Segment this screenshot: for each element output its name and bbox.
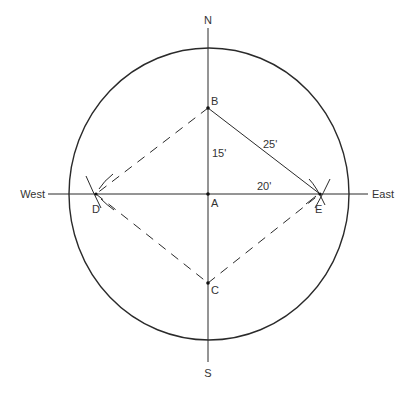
dashed-b-d: [96, 108, 208, 194]
label-point-b: B: [211, 95, 218, 107]
point-a: [206, 192, 210, 196]
label-west: West: [20, 188, 45, 200]
dashed-c-e: [208, 194, 320, 283]
point-c: [206, 281, 210, 285]
measurement-ae: 20': [257, 180, 271, 192]
label-east: East: [372, 188, 394, 200]
label-point-c: C: [211, 284, 219, 296]
dashed-d-c: [96, 194, 208, 283]
layout-diagram: N S West East A B C D E 15' 25' 20': [0, 0, 413, 393]
label-north: N: [204, 14, 212, 26]
label-south: S: [204, 367, 211, 379]
measurement-be: 25': [263, 138, 277, 150]
label-point-a: A: [211, 197, 219, 209]
point-e: [318, 192, 321, 195]
measurement-ab: 15': [212, 147, 226, 159]
point-d: [94, 192, 97, 195]
label-point-d: D: [92, 203, 100, 215]
point-b: [206, 106, 210, 110]
label-point-e: E: [315, 203, 322, 215]
